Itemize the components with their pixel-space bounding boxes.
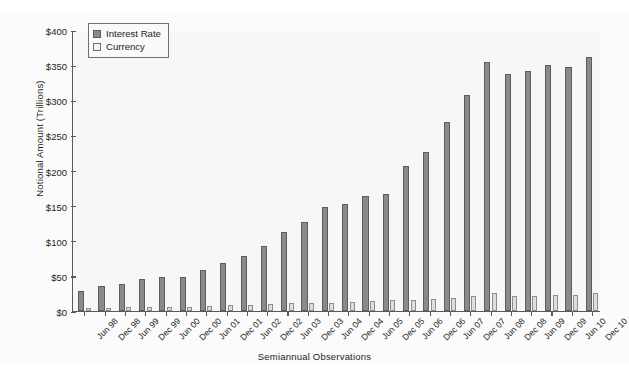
y-axis-tick-label: $100 — [29, 238, 67, 248]
x-tick-mark — [389, 311, 390, 316]
x-tick-mark — [450, 311, 451, 316]
x-tick-mark — [572, 311, 573, 316]
bar-group — [261, 31, 274, 311]
bar-interest-rate — [525, 71, 531, 311]
bar-group — [220, 31, 233, 311]
bar-group — [444, 31, 457, 311]
bar-group — [586, 31, 599, 311]
x-tick-mark — [308, 311, 309, 316]
bar-interest-rate — [301, 222, 307, 311]
legend-item-currency: Currency — [93, 40, 161, 53]
currency-swatch-icon — [93, 43, 101, 51]
y-axis-tick-label: $250 — [29, 132, 67, 142]
bar-currency — [289, 303, 294, 311]
bar-interest-rate — [586, 57, 592, 311]
bar-currency — [187, 307, 192, 311]
x-tick-mark — [491, 311, 492, 316]
bar-group — [78, 31, 91, 311]
bar-currency — [411, 300, 416, 311]
legend-label-currency: Currency — [106, 41, 145, 52]
bar-group — [362, 31, 375, 311]
bar-interest-rate — [241, 256, 247, 311]
y-axis-tick-label: $150 — [29, 203, 67, 213]
bar-group — [200, 31, 213, 311]
bar-interest-rate — [444, 122, 450, 311]
x-tick-mark — [348, 311, 349, 316]
bar-series-container — [73, 31, 600, 311]
x-tick-mark — [430, 311, 431, 316]
bar-interest-rate — [403, 166, 409, 311]
bar-group — [565, 31, 578, 311]
x-tick-mark — [470, 311, 471, 316]
legend-item-interest-rate: Interest Rate — [93, 27, 161, 40]
x-tick-mark — [551, 311, 552, 316]
bar-currency — [390, 300, 395, 311]
chart-figure: Notional Amount (Trillions) $400$350$300… — [0, 0, 629, 377]
bar-currency — [370, 301, 375, 311]
y-axis-tick-label: $50 — [29, 273, 67, 283]
plot-area: $400$350$300$250$200$150$100$50$0 — [72, 31, 600, 312]
bar-currency — [147, 307, 152, 311]
bar-currency — [431, 299, 436, 311]
bar-interest-rate — [119, 284, 125, 311]
bar-group — [383, 31, 396, 311]
y-tick-mark — [71, 312, 76, 313]
bar-interest-rate — [180, 277, 186, 311]
x-tick-mark — [287, 311, 288, 316]
bar-currency — [451, 298, 456, 311]
bar-currency — [512, 296, 517, 311]
bar-interest-rate — [423, 152, 429, 311]
x-tick-mark — [227, 311, 228, 316]
bar-currency — [106, 308, 111, 312]
bar-interest-rate — [464, 95, 470, 311]
bar-group — [505, 31, 518, 311]
bar-group — [98, 31, 111, 311]
bar-interest-rate — [261, 246, 267, 311]
bar-interest-rate — [139, 279, 145, 311]
bar-currency — [532, 296, 537, 311]
bar-interest-rate — [159, 277, 165, 311]
bar-group — [119, 31, 132, 311]
x-tick-mark — [125, 311, 126, 316]
bar-group — [545, 31, 558, 311]
bar-group — [180, 31, 193, 311]
bar-group — [301, 31, 314, 311]
bar-group — [139, 31, 152, 311]
bar-interest-rate — [362, 196, 368, 311]
bar-currency — [86, 308, 91, 312]
x-tick-mark — [247, 311, 248, 316]
bar-currency — [268, 304, 273, 311]
bar-group — [484, 31, 497, 311]
x-tick-mark — [369, 311, 370, 316]
y-axis-tick-label: $200 — [29, 168, 67, 178]
bar-group — [281, 31, 294, 311]
bar-interest-rate — [342, 204, 348, 311]
bar-interest-rate — [281, 232, 287, 311]
y-axis-tick-label: $350 — [29, 62, 67, 72]
bar-interest-rate — [545, 65, 551, 311]
bar-group — [322, 31, 335, 311]
bar-group — [423, 31, 436, 311]
bar-currency — [309, 303, 314, 311]
x-tick-mark — [511, 311, 512, 316]
bar-currency — [126, 307, 131, 311]
x-tick-mark — [145, 311, 146, 316]
bar-group — [525, 31, 538, 311]
bar-interest-rate — [484, 62, 490, 311]
bar-group — [464, 31, 477, 311]
interest-rate-swatch-icon — [93, 30, 101, 38]
bar-interest-rate — [98, 286, 104, 311]
x-tick-mark — [206, 311, 207, 316]
bar-group — [159, 31, 172, 311]
x-tick-mark — [409, 311, 410, 316]
y-axis-tick-label: $400 — [29, 27, 67, 37]
bar-currency — [167, 307, 172, 311]
bar-currency — [573, 295, 578, 311]
x-tick-mark — [328, 311, 329, 316]
chart-legend: Interest Rate Currency — [88, 23, 169, 58]
x-axis-title: Semiannual Observations — [0, 351, 629, 362]
bar-interest-rate — [78, 291, 84, 311]
x-tick-mark — [166, 311, 167, 316]
bar-currency — [207, 306, 212, 311]
bar-interest-rate — [505, 74, 511, 311]
